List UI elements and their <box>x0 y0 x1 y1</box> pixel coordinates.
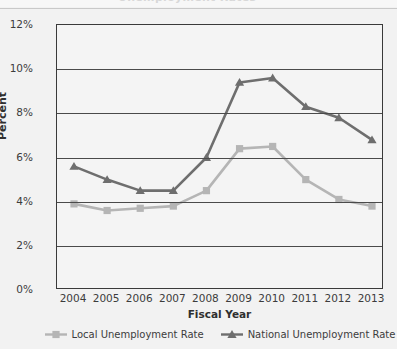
y-tick-label: 6% <box>0 151 33 163</box>
series-national-unemployment-rate <box>69 74 376 194</box>
legend-triangle-marker-icon <box>220 329 244 340</box>
legend-label: National Unemployment Rate <box>248 329 396 340</box>
y-tick-label: 4% <box>0 195 33 207</box>
legend-item[interactable]: National Unemployment Rate <box>220 329 396 340</box>
data-point-square-marker <box>203 187 210 194</box>
y-tick-label: 2% <box>0 239 33 251</box>
y-tick-label: 12% <box>0 18 33 30</box>
unemployment-rate-line-chart: Percent 0%2%4%6%8%10%12% 200420052006200… <box>0 0 397 349</box>
y-tick-label: 0% <box>0 283 33 295</box>
series-line <box>74 78 372 191</box>
legend-square-marker-icon <box>44 329 68 340</box>
legend-item[interactable]: Local Unemployment Rate <box>44 329 204 340</box>
x-tick-label: 2013 <box>351 292 391 304</box>
gridline-8% <box>57 113 382 114</box>
chart-legend: Local Unemployment RateNational Unemploy… <box>56 329 383 340</box>
series-local-unemployment-rate <box>70 143 375 214</box>
data-point-square-marker <box>52 331 59 338</box>
y-tick-label: 10% <box>0 62 33 74</box>
data-point-square-marker <box>302 176 309 183</box>
plot-area: 0%2%4%6%8%10%12% <box>56 24 383 289</box>
data-point-square-marker <box>269 143 276 150</box>
data-point-square-marker <box>170 202 177 209</box>
gridline-2% <box>57 246 382 247</box>
data-point-square-marker <box>137 205 144 212</box>
gridline-4% <box>57 202 382 203</box>
data-point-square-marker <box>368 202 375 209</box>
gridline-10% <box>57 69 382 70</box>
legend-label: Local Unemployment Rate <box>72 329 204 340</box>
data-point-square-marker <box>236 145 243 152</box>
data-point-square-marker <box>104 207 111 214</box>
y-tick-label: 8% <box>0 106 33 118</box>
data-point-triangle-marker <box>69 162 78 170</box>
x-axis-title: Fiscal Year <box>56 308 383 320</box>
gridline-6% <box>57 158 382 159</box>
